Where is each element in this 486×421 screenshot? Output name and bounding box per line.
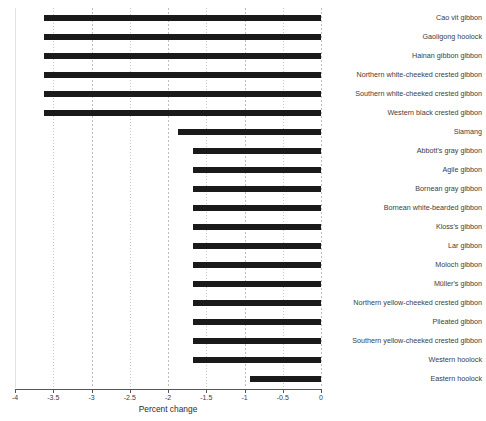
bar-row [15, 255, 321, 274]
bar[interactable] [193, 357, 321, 363]
category-label: Gaoligong hoolock [422, 27, 482, 46]
category-label: Kloss's gibbon [436, 217, 482, 236]
x-axis-tick-label: -4 [12, 394, 18, 401]
bar-row [15, 46, 321, 65]
chart-container: Cao vit gibbonGaoligong hoolockHainan gi… [0, 0, 486, 421]
bar-row [15, 198, 321, 217]
bar-row [15, 84, 321, 103]
bar-row [15, 217, 321, 236]
category-label: Bornean white-bearded gibbon [384, 198, 482, 217]
x-axis-tick-label: -0.5 [277, 394, 289, 401]
category-label: Pileated gibbon [432, 312, 482, 331]
category-label: Lar gibbon [448, 236, 482, 255]
x-axis-tick [206, 389, 207, 393]
category-label: Agile gibbon [442, 160, 482, 179]
x-axis-tick-label: 0 [319, 394, 323, 401]
category-label: Cao vit gibbon [436, 8, 482, 27]
bar-row [15, 103, 321, 122]
bar-row [15, 369, 321, 388]
bar[interactable] [44, 15, 321, 21]
bar[interactable] [44, 110, 321, 116]
category-label: Müller's gibbon [434, 274, 482, 293]
category-label: Northern yellow-cheeked crested gibbon [353, 293, 482, 312]
x-axis-tick-label: -2 [165, 394, 171, 401]
bar-row [15, 160, 321, 179]
x-axis-tick-label: -3 [88, 394, 94, 401]
bar-row [15, 293, 321, 312]
x-axis-tick [92, 389, 93, 393]
bar[interactable] [178, 129, 321, 135]
x-axis-tick [15, 389, 16, 393]
category-label: Bornean gray gibbon [415, 179, 482, 198]
category-label-column: Cao vit gibbonGaoligong hoolockHainan gi… [330, 8, 484, 388]
bar[interactable] [193, 319, 321, 325]
category-label: Eastern hoolock [430, 369, 482, 388]
category-label: Northern white-cheeked crested gibbon [357, 65, 482, 84]
x-axis-tick [130, 389, 131, 393]
bar-row [15, 122, 321, 141]
bar[interactable] [193, 224, 321, 230]
x-axis-tick-label: -2.5 [124, 394, 136, 401]
bar-row [15, 65, 321, 84]
x-axis-tick [245, 389, 246, 393]
bar[interactable] [44, 34, 321, 40]
bar-row [15, 236, 321, 255]
bar-row [15, 27, 321, 46]
bar[interactable] [250, 376, 321, 382]
x-axis-tick [321, 389, 322, 393]
plot-area [15, 8, 321, 388]
category-label: Southern white-cheeked crested gibbon [355, 84, 482, 103]
category-label: Hainan gibbon gibbon [412, 46, 482, 65]
bar-row [15, 8, 321, 27]
x-axis-tick [168, 389, 169, 393]
category-label: Siamang [454, 122, 482, 141]
bar[interactable] [193, 148, 321, 154]
bar-row [15, 141, 321, 160]
bar[interactable] [44, 72, 321, 78]
bar[interactable] [193, 281, 321, 287]
x-axis-tick [283, 389, 284, 393]
bar[interactable] [193, 338, 321, 344]
bar-row [15, 274, 321, 293]
x-axis-tick-label: -1.5 [200, 394, 212, 401]
bar[interactable] [44, 91, 321, 97]
bar[interactable] [193, 243, 321, 249]
gridline [321, 8, 322, 388]
x-axis-title: Percent change [15, 404, 321, 414]
x-axis-tick [53, 389, 54, 393]
category-label: Western black crested gibbon [387, 103, 482, 122]
category-label: Southern yellow-cheeked crested gibbon [352, 331, 482, 350]
bar[interactable] [44, 53, 321, 59]
bar[interactable] [193, 167, 321, 173]
bar-row [15, 312, 321, 331]
x-axis-tick-label: -1 [241, 394, 247, 401]
bar[interactable] [193, 186, 321, 192]
bar-row [15, 179, 321, 198]
bar[interactable] [193, 300, 321, 306]
bar[interactable] [193, 205, 321, 211]
category-label: Moloch gibbon [435, 255, 482, 274]
category-label: Abbott's gray gibbon [417, 141, 482, 160]
bar-row [15, 350, 321, 369]
x-axis: -4-3.5-3-2.5-2-1.5-1-0.50 [15, 389, 321, 390]
bar-row [15, 331, 321, 350]
bar[interactable] [193, 262, 321, 268]
x-axis-tick-label: -3.5 [47, 394, 59, 401]
category-label: Western hoolock [429, 350, 482, 369]
